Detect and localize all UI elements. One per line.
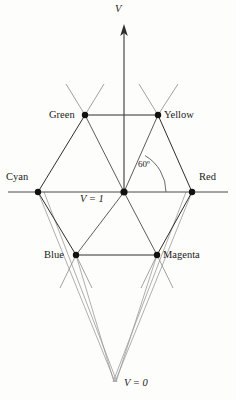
spoke-center-green <box>85 115 124 192</box>
vertex-dot-yellow <box>155 112 161 118</box>
ext-yellow-upleft <box>139 84 158 115</box>
label-angle-60: 60º <box>138 160 150 169</box>
edge-red-magenta <box>157 192 192 255</box>
vertex-dot-cyan <box>35 189 41 195</box>
edge-cyan-green <box>38 115 85 192</box>
vertex-dot-red <box>189 189 195 195</box>
color-hexcone-figure <box>0 0 236 400</box>
edge-yellow-red <box>158 115 192 192</box>
label-yellow: Yellow <box>164 110 194 121</box>
v-axis-label: V <box>115 4 121 15</box>
spoke-center-magenta <box>124 192 157 255</box>
edge-blue-cyan <box>38 192 76 255</box>
cone-line-red-apex-2 <box>113 192 186 382</box>
cone-line-cyan-apex <box>38 192 115 382</box>
vertex-dot-magenta <box>154 252 160 258</box>
label-cyan: Cyan <box>6 172 28 183</box>
label-green: Green <box>49 110 75 121</box>
hexagon-outline <box>38 115 192 255</box>
label-magenta: Magenta <box>163 250 200 261</box>
cone-edge-lines <box>38 192 192 382</box>
label-v-equals-one: V = 1 <box>80 194 104 205</box>
label-blue: Blue <box>44 250 64 261</box>
cone-line-magenta-apex <box>116 255 157 382</box>
vertex-dots <box>35 112 195 258</box>
vertex-dot-green <box>82 112 88 118</box>
label-v-equals-zero: V = 0 <box>124 378 148 389</box>
radial-spokes <box>76 115 158 255</box>
spoke-center-yellow <box>124 115 158 192</box>
vertex-dot-center <box>120 188 127 195</box>
cone-line-blue-apex <box>76 255 114 382</box>
cone-line-red-apex <box>115 192 192 382</box>
ext-green-upright <box>85 84 104 115</box>
label-red: Red <box>199 172 216 183</box>
vertex-dot-blue <box>73 252 79 258</box>
ext-magenta-downleft <box>141 255 157 288</box>
